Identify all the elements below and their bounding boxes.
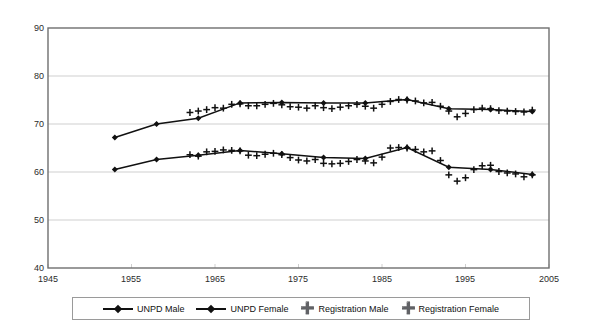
x-tick-label-1955: 1955 [111,274,151,284]
data-point-marker [195,115,201,121]
legend-item-registration-male: ➕ Registration Male [300,304,388,314]
life-expectancy-chart: 90 80 70 60 50 40 1945 1955 1965 1975 19… [0,0,600,334]
series-unpd-female [112,97,536,141]
y-tick-label-50: 50 [22,215,44,225]
series-registration-male [187,144,536,184]
x-tick-label-1995: 1995 [445,274,485,284]
legend-item-unpd-female: UNPD Female [196,304,288,314]
x-tick-label-2005: 2005 [529,274,569,284]
y-tick-label-80: 80 [22,71,44,81]
data-point-marker [154,157,160,163]
line-diamond-icon [196,304,226,313]
legend-item-unpd-male: UNPD Male [103,304,185,314]
x-tick-label-1975: 1975 [278,274,318,284]
legend-item-registration-female: ➕ Registration Female [401,304,500,314]
y-tick-label-40: 40 [22,263,44,273]
plot-frame [48,28,549,268]
x-tick-label-1965: 1965 [195,274,235,284]
data-point-marker [321,155,327,161]
y-tick-label-70: 70 [22,119,44,129]
series-registration-female [187,96,536,120]
y-tick-label-60: 60 [22,167,44,177]
x-tick-label-1945: 1945 [28,274,68,284]
data-point-marker [154,121,160,127]
legend-label-unpd-male: UNPD Male [137,304,185,314]
legend-label-registration-male: Registration Male [318,304,388,314]
legend-label-registration-female: Registration Female [419,304,500,314]
line-diamond-icon [103,304,133,313]
chart-legend: UNPD Male UNPD Female ➕ Registration Mal… [72,297,530,320]
legend-label-unpd-female: UNPD Female [230,304,288,314]
x-tick-label-1985: 1985 [362,274,402,284]
y-tick-label-90: 90 [22,23,44,33]
data-point-marker [446,164,452,170]
plus-marker-icon: ➕ [401,304,415,313]
data-point-marker [112,134,118,140]
plus-marker-icon: ➕ [300,304,314,313]
